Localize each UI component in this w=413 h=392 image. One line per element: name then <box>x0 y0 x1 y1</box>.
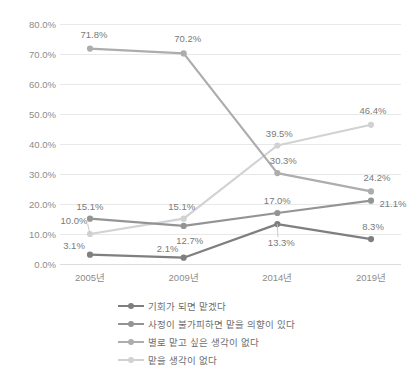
y-axis-tick: 0.0% <box>8 259 56 270</box>
gridline <box>60 264 401 265</box>
legend-item[interactable]: 별로 맡고 싶은 생각이 없다 <box>118 333 408 351</box>
legend-item[interactable]: 맡을 생각이 없다 <box>118 351 408 369</box>
data-point-marker <box>181 223 187 229</box>
data-point-marker <box>368 188 374 194</box>
data-label: 3.1% <box>63 239 85 250</box>
data-point-marker <box>274 210 280 216</box>
y-axis-tick: 20.0% <box>8 199 56 210</box>
data-point-marker <box>368 236 374 242</box>
data-point-marker <box>181 50 187 56</box>
data-point-marker <box>181 216 187 222</box>
y-axis-tick: 30.0% <box>8 169 56 180</box>
data-point-marker <box>87 46 93 52</box>
series-line <box>90 49 371 192</box>
legend-marker-icon <box>118 355 144 365</box>
legend-item[interactable]: 기회가 되면 맡겠다 <box>118 297 408 315</box>
data-label: 8.3% <box>362 221 384 232</box>
label-leader-line <box>277 224 278 237</box>
data-point-marker <box>87 216 93 222</box>
legend-marker-icon <box>118 301 144 311</box>
data-label: 21.1% <box>380 197 407 208</box>
data-label: 71.8% <box>81 28 108 39</box>
data-point-marker <box>87 252 93 258</box>
legend-marker-icon <box>118 337 144 347</box>
y-axis-tick: 40.0% <box>8 139 56 150</box>
data-label: 13.3% <box>268 237 295 248</box>
data-label: 15.1% <box>77 200 104 211</box>
data-point-marker <box>274 170 280 176</box>
data-point-marker <box>368 198 374 204</box>
series-line <box>90 224 371 258</box>
y-axis-tick: 60.0% <box>8 79 56 90</box>
data-point-marker <box>274 142 280 148</box>
y-axis-tick: 50.0% <box>8 109 56 120</box>
data-label: 17.0% <box>264 195 291 206</box>
y-axis-tick: 80.0% <box>8 19 56 30</box>
data-label: 70.2% <box>174 33 201 44</box>
plot-area: 0.0%10.0%20.0%30.0%40.0%50.0%60.0%70.0%8… <box>60 24 401 264</box>
legend-item-label: 기회가 되면 맡겠다 <box>148 299 226 313</box>
legend-item-label: 사정이 불가피하면 맡을 의향이 있다 <box>148 317 295 331</box>
legend-marker-icon <box>118 319 144 329</box>
x-axis-tick: 2005년 <box>75 270 105 284</box>
data-point-marker <box>181 255 187 261</box>
series-line <box>90 201 371 226</box>
data-label: 12.7% <box>176 234 203 245</box>
legend-item-label: 별로 맡고 싶은 생각이 없다 <box>148 335 259 349</box>
data-label: 15.1% <box>168 200 195 211</box>
x-axis-tick: 2009년 <box>169 270 199 284</box>
legend: 기회가 되면 맡겠다사정이 불가피하면 맡을 의향이 있다별로 맡고 싶은 생각… <box>118 297 408 369</box>
x-axis-tick: 2019년 <box>356 270 386 284</box>
series-lines <box>60 24 401 264</box>
data-label: 46.4% <box>360 104 387 115</box>
data-label: 10.0% <box>61 215 88 226</box>
y-axis-tick: 70.0% <box>8 49 56 60</box>
data-label: 39.5% <box>266 127 293 138</box>
x-axis-tick: 2014년 <box>262 270 292 284</box>
y-axis-tick: 10.0% <box>8 229 56 240</box>
legend-item-label: 맡을 생각이 없다 <box>148 353 217 367</box>
data-label: 24.2% <box>364 172 391 183</box>
data-label: 30.3% <box>270 155 297 166</box>
line-chart: 0.0%10.0%20.0%30.0%40.0%50.0%60.0%70.0%8… <box>0 0 413 392</box>
legend-item[interactable]: 사정이 불가피하면 맡을 의향이 있다 <box>118 315 408 333</box>
data-point-marker <box>368 122 374 128</box>
series-line <box>90 125 371 234</box>
